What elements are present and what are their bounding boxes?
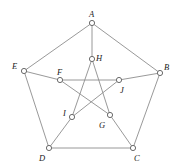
graph-edge-e-a xyxy=(24,23,92,71)
graph-edge-d-e xyxy=(24,71,49,148)
node-label-h: H xyxy=(96,54,102,63)
node-label-i: I xyxy=(63,109,66,118)
graph-edge-h-g xyxy=(92,59,110,115)
node-label-j: J xyxy=(120,86,124,95)
graph-edge-a-b xyxy=(92,23,160,73)
graph-edge-b-j xyxy=(119,73,160,80)
node-label-d: D xyxy=(39,154,45,163)
graph-edge-e-f xyxy=(24,71,60,80)
graph-node-c[interactable] xyxy=(130,145,135,150)
graph-node-b[interactable] xyxy=(157,70,162,75)
graph-node-h[interactable] xyxy=(89,56,94,61)
node-label-g: G xyxy=(99,121,105,130)
graph-node-f[interactable] xyxy=(57,77,62,82)
graph-edge-b-c xyxy=(133,73,160,148)
graph-edge-d-i xyxy=(49,117,72,148)
graph-edge-g-f xyxy=(60,80,110,115)
edges-group xyxy=(24,23,160,148)
node-label-c: C xyxy=(134,154,140,163)
graph-node-j[interactable] xyxy=(116,77,121,82)
node-label-e: E xyxy=(12,62,17,71)
graph-node-i[interactable] xyxy=(69,114,74,119)
graph-edge-j-i xyxy=(72,80,119,117)
graph-figure: ABCDEFGHIJ xyxy=(0,0,174,168)
node-label-a: A xyxy=(89,10,94,19)
graph-node-e[interactable] xyxy=(21,68,26,73)
graph-node-a[interactable] xyxy=(89,20,94,25)
graph-node-d[interactable] xyxy=(46,145,51,150)
graph-canvas xyxy=(0,0,174,168)
node-label-b: B xyxy=(164,63,169,72)
graph-edge-i-h xyxy=(72,59,92,117)
graph-node-g[interactable] xyxy=(107,112,112,117)
graph-edge-c-g xyxy=(110,115,133,148)
node-label-f: F xyxy=(57,68,62,77)
